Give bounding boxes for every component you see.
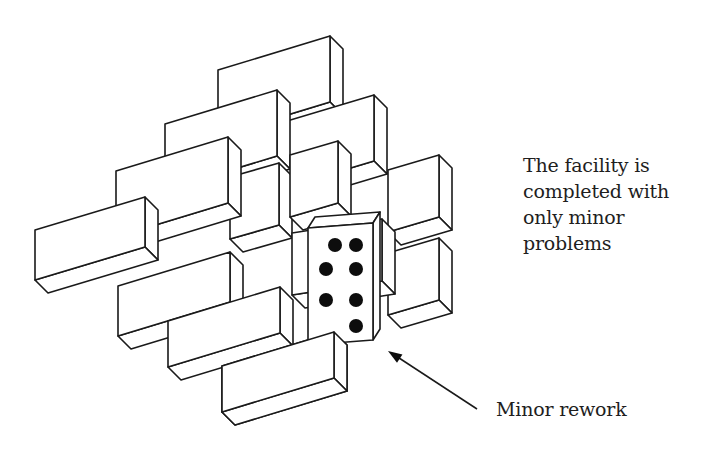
rework-side-face xyxy=(373,212,380,340)
status-caption: The facility is completed with only mino… xyxy=(523,152,713,256)
block xyxy=(35,197,158,293)
rework-dot-icon xyxy=(349,319,363,333)
status-caption-line: problems xyxy=(523,230,713,256)
status-caption-line: The facility is xyxy=(523,152,713,178)
rework-dot-icon xyxy=(349,238,363,252)
rework-dot-icon xyxy=(319,262,333,276)
rework-dot-icon xyxy=(349,262,363,276)
rework-dot-icon xyxy=(349,293,363,307)
arrow-line xyxy=(396,356,477,409)
status-caption-line: completed with xyxy=(523,178,713,204)
rework-dot-icon xyxy=(319,293,333,307)
block xyxy=(388,238,452,328)
rework-arrow-icon xyxy=(388,351,477,409)
rework-block-shape xyxy=(308,212,380,345)
rework-label: Minor rework xyxy=(496,396,627,422)
status-caption-line: only minor xyxy=(523,204,713,230)
rework-dot-icon xyxy=(328,238,342,252)
block-front-face xyxy=(290,141,338,217)
rework-block xyxy=(308,212,380,345)
arrow-head-icon xyxy=(388,351,402,363)
block xyxy=(388,155,452,245)
